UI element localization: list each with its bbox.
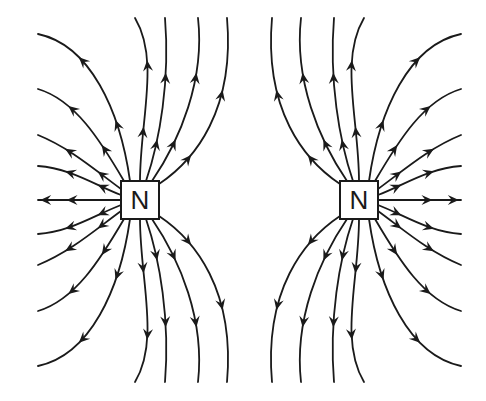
arrowhead-icon [63, 145, 78, 159]
field-line [369, 34, 461, 181]
arrowhead-icon [272, 298, 284, 311]
arrowhead-icon [422, 167, 435, 180]
arrowhead-icon [64, 167, 77, 180]
field-line [378, 135, 461, 189]
arrowhead-icon [337, 249, 349, 262]
arrowhead-icon [63, 241, 78, 255]
arrowhead-icon [98, 243, 112, 258]
arrowhead-icon [422, 221, 435, 234]
field-line [378, 211, 461, 265]
magnet-left-label: N [131, 185, 150, 215]
arrowhead-icon [64, 221, 77, 234]
arrowhead-icon [375, 118, 388, 132]
arrowhead-icon [98, 142, 112, 157]
field-line [152, 219, 199, 382]
field-line [38, 211, 121, 265]
arrowhead-icon [166, 249, 180, 263]
field-line [38, 135, 121, 189]
arrowhead-icon [422, 241, 437, 255]
field-line [152, 18, 199, 181]
arrowhead-icon [422, 145, 437, 159]
arrowhead-icon [111, 268, 124, 282]
arrowhead-icon [150, 249, 162, 262]
field-line [333, 18, 353, 181]
arrowhead-icon [389, 206, 403, 220]
field-line [351, 219, 364, 382]
field-line [135, 18, 148, 181]
arrowhead-icon [150, 138, 162, 151]
field-line [38, 219, 130, 366]
field-lines [38, 18, 461, 382]
arrowhead-icon [387, 243, 401, 258]
arrowhead-icon [215, 298, 227, 311]
arrowhead-icon [375, 268, 388, 282]
magnetic-field-diagram: N N [0, 0, 486, 401]
arrowhead-icon [319, 137, 333, 151]
field-line [271, 18, 340, 184]
arrowhead-icon [319, 249, 333, 263]
arrowhead-icon [166, 137, 180, 151]
field-line [300, 219, 347, 382]
arrowhead-icon [272, 89, 284, 102]
field-line [369, 219, 461, 366]
arrowhead-icon [337, 138, 349, 151]
field-line [146, 219, 166, 382]
arrowhead-icon [389, 180, 403, 194]
arrowhead-icon [96, 180, 110, 194]
field-line [351, 18, 364, 181]
arrowhead-icon [96, 206, 110, 220]
field-line [159, 216, 228, 382]
field-line [271, 216, 340, 382]
magnet-right-label: N [350, 185, 369, 215]
field-line [38, 34, 130, 181]
field-line [146, 18, 166, 181]
field-line [159, 18, 228, 184]
field-line [333, 219, 353, 382]
field-line [300, 18, 347, 181]
arrowhead-icon [387, 142, 401, 157]
arrowhead-icon [215, 89, 227, 102]
magnet-left: N [121, 181, 159, 219]
arrowhead-icon [111, 118, 124, 132]
magnet-right: N [340, 181, 378, 219]
field-line [135, 219, 148, 382]
